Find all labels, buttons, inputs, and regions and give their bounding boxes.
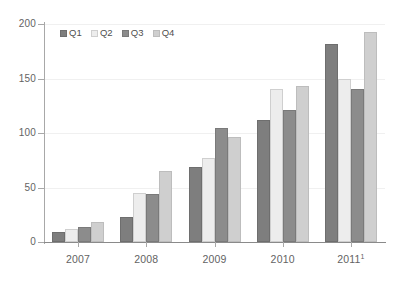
- plot-area: [44, 24, 385, 242]
- x-axis-tick: [283, 242, 284, 247]
- legend-swatch-icon-q3: [122, 30, 129, 37]
- bar-2011-Q1: [325, 44, 338, 242]
- bar-2007-Q4: [91, 222, 104, 242]
- legend-label: Q3: [131, 28, 144, 38]
- bar-group-2007: [52, 24, 104, 242]
- bar-2010-Q4: [296, 86, 309, 242]
- legend-item-q4[interactable]: Q4: [153, 28, 175, 38]
- bar-2009-Q2: [202, 158, 215, 242]
- y-axis-tick-label: 100: [2, 128, 36, 138]
- legend-swatch-icon-q1: [60, 30, 67, 37]
- bar-2009-Q1: [189, 167, 202, 242]
- legend-item-q2[interactable]: Q2: [91, 28, 113, 38]
- y-axis-tick: [38, 79, 44, 80]
- bar-2008-Q1: [120, 217, 133, 242]
- legend-label: Q4: [162, 28, 175, 38]
- legend-item-q1[interactable]: Q1: [60, 28, 82, 38]
- x-axis-tick: [78, 242, 79, 247]
- bar-chart: 050100150200 200720082009201020111 Q1Q2Q…: [0, 0, 397, 286]
- bar-2007-Q2: [65, 229, 78, 242]
- bar-group-2009: [189, 24, 241, 242]
- bar-2011-Q3: [351, 89, 364, 242]
- x-axis-tick-label: 20111: [321, 253, 381, 265]
- y-axis-tick-label: 200: [2, 19, 36, 29]
- y-axis-tick: [38, 133, 44, 134]
- bar-2007-Q1: [52, 232, 65, 242]
- footnote-marker: 1: [361, 253, 365, 260]
- x-axis-tick: [215, 242, 216, 247]
- bar-2009-Q3: [215, 128, 228, 242]
- bar-2011-Q2: [338, 79, 351, 243]
- bar-2010-Q2: [270, 89, 283, 242]
- y-axis-tick-label: 0: [2, 237, 36, 247]
- y-axis-tick: [38, 242, 44, 243]
- bar-2010-Q3: [283, 110, 296, 242]
- legend-item-q3[interactable]: Q3: [122, 28, 144, 38]
- y-axis-labels: 050100150200: [0, 0, 36, 286]
- legend-swatch-icon-q4: [153, 30, 160, 37]
- x-axis-tick: [351, 242, 352, 247]
- x-axis-tick-label: 2008: [116, 253, 176, 265]
- bar-2010-Q1: [257, 120, 270, 242]
- y-axis-tick-label: 50: [2, 183, 36, 193]
- bar-2007-Q3: [78, 227, 91, 242]
- bar-group-2010: [257, 24, 309, 242]
- bar-2008-Q4: [159, 171, 172, 242]
- bar-2008-Q3: [146, 194, 159, 242]
- legend-swatch-icon-q2: [91, 30, 98, 37]
- bar-2011-Q4: [364, 32, 377, 242]
- legend-label: Q2: [100, 28, 113, 38]
- chart-legend: Q1Q2Q3Q4: [60, 28, 175, 38]
- x-axis-labels: 200720082009201020111: [44, 253, 385, 275]
- y-axis-tick-label: 150: [2, 74, 36, 84]
- x-axis-tick-label: 2009: [185, 253, 245, 265]
- bar-2008-Q2: [133, 193, 146, 242]
- bar-2009-Q4: [228, 137, 241, 242]
- y-axis-line: [44, 22, 45, 244]
- bar-group-2008: [120, 24, 172, 242]
- bar-group-2011: [325, 24, 377, 242]
- y-axis-tick: [38, 24, 44, 25]
- x-axis-tick: [146, 242, 147, 247]
- legend-label: Q1: [69, 28, 82, 38]
- x-axis-tick-label: 2010: [253, 253, 313, 265]
- x-axis-tick-label: 2007: [48, 253, 108, 265]
- y-axis-tick: [38, 188, 44, 189]
